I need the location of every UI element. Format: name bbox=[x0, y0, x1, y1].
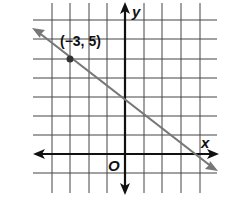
x-axis-label: x bbox=[200, 134, 210, 151]
point-label: (−3, 5) bbox=[60, 33, 101, 49]
y-axis-label: y bbox=[131, 3, 141, 20]
origin-label: O bbox=[108, 157, 120, 174]
plotted-point bbox=[67, 56, 74, 63]
coordinate-graph: x y O (−3, 5) bbox=[0, 0, 232, 212]
